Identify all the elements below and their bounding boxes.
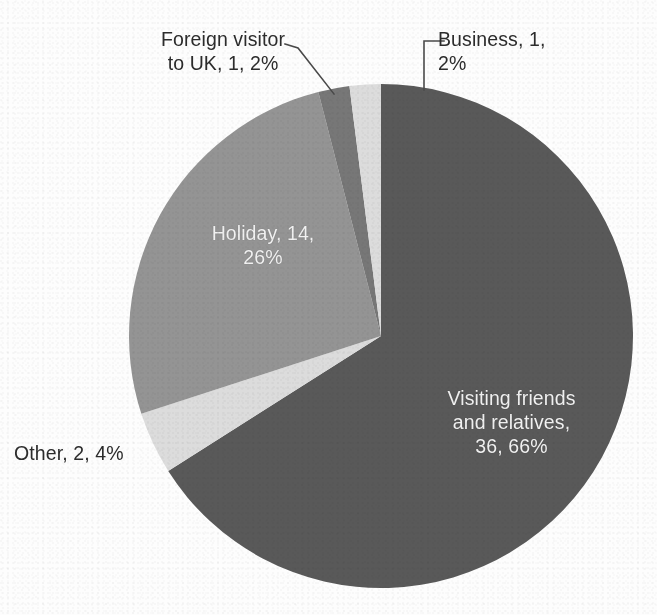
pie-label-holiday: Holiday, 14, 26%	[168, 222, 358, 270]
pie-label-foreign-visitor-to-uk: Foreign visitor to UK, 1, 2%	[118, 28, 328, 76]
pie-slices	[129, 84, 633, 588]
pie-label-other: Other, 2, 4%	[14, 442, 189, 466]
pie-chart-canvas	[0, 0, 657, 615]
pie-label-business: Business, 1, 2%	[438, 28, 623, 76]
pie-label-visiting-friends-and-relatives: Visiting friends and relatives, 36, 66%	[409, 387, 614, 458]
pie-chart-figure: Foreign visitor to UK, 1, 2% Business, 1…	[0, 0, 657, 615]
